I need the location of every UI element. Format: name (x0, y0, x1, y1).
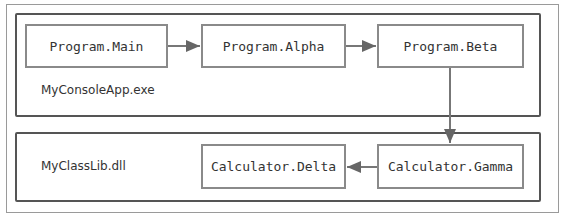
node-program-alpha: Program.Alpha (201, 24, 346, 68)
node-program-beta: Program.Beta (377, 24, 524, 68)
container-label-myclasslib: MyClassLib.dll (41, 159, 126, 173)
node-calculator-delta: Calculator.Delta (201, 144, 346, 189)
node-program-main: Program.Main (25, 24, 168, 68)
container-label-myconsoleapp: MyConsoleApp.exe (41, 83, 155, 97)
node-calculator-gamma: Calculator.Gamma (377, 144, 524, 189)
